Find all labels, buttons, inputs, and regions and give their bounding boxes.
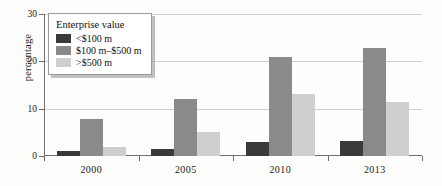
bar: [292, 94, 315, 156]
x-tick-mark: [328, 156, 329, 161]
legend: Enterprise value <$100 m$100 m–$500 m>$5…: [48, 13, 152, 75]
x-tick-mark: [139, 156, 140, 161]
legend-swatch: [56, 58, 71, 67]
bar: [197, 132, 220, 156]
bars: [233, 14, 328, 156]
x-tick-label: 2010: [269, 164, 291, 175]
x-tick-label: 2000: [80, 164, 102, 175]
bar-group: 2010: [233, 14, 328, 156]
y-tick-label: 20: [28, 56, 38, 66]
legend-item: >$500 m: [56, 57, 142, 68]
bar: [80, 119, 103, 156]
y-tick-label: 10: [28, 104, 38, 114]
bar: [57, 151, 80, 156]
legend-items: <$100 m$100 m–$500 m>$500 m: [56, 33, 142, 68]
x-tick-mark: [422, 156, 423, 161]
legend-swatch: [56, 46, 71, 55]
x-tick-label: 2013: [364, 164, 386, 175]
bar: [386, 102, 409, 156]
bars: [139, 14, 234, 156]
x-tick-mark: [233, 156, 234, 161]
legend-label: $100 m–$500 m: [76, 45, 142, 56]
bar: [103, 147, 126, 156]
legend-item: $100 m–$500 m: [56, 45, 142, 56]
bar-chart: percentage 0102030 2000200520102013 Ente…: [0, 0, 442, 186]
bars: [328, 14, 423, 156]
legend-item: <$100 m: [56, 33, 142, 44]
legend-title: Enterprise value: [56, 19, 142, 30]
bar: [363, 48, 386, 156]
bar: [174, 99, 197, 156]
x-tick-mark: [44, 156, 45, 161]
y-tick-label: 0: [32, 151, 37, 161]
legend-label: >$500 m: [76, 57, 112, 68]
bar: [340, 141, 363, 156]
bar: [246, 142, 269, 156]
bar: [269, 57, 292, 156]
legend-swatch: [56, 34, 71, 43]
legend-label: <$100 m: [76, 33, 112, 44]
bar-group: 2013: [328, 14, 423, 156]
y-tick-label: 30: [28, 9, 38, 19]
x-tick-label: 2005: [175, 164, 197, 175]
bar-group: 2005: [139, 14, 234, 156]
bar: [151, 149, 174, 156]
